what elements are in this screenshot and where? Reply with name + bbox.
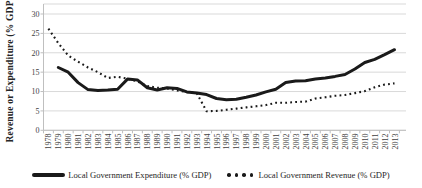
svg-text:2006: 2006 — [321, 134, 330, 150]
svg-text:1979: 1979 — [54, 134, 63, 150]
svg-text:1981: 1981 — [74, 134, 83, 150]
svg-text:1982: 1982 — [84, 134, 93, 150]
svg-text:1996: 1996 — [222, 134, 231, 150]
svg-text:1989: 1989 — [153, 134, 162, 150]
legend: Local Government Expenditure (% GDP) Loc… — [0, 166, 422, 184]
svg-text:2000: 2000 — [262, 134, 271, 150]
svg-text:1988: 1988 — [143, 134, 152, 150]
svg-text:2002: 2002 — [282, 134, 291, 150]
y-axis-title: Revenue or Expenditure (% GDP) — [5, 3, 18, 143]
svg-text:20: 20 — [32, 49, 40, 58]
svg-text:2013: 2013 — [391, 134, 400, 150]
svg-text:2005: 2005 — [311, 134, 320, 150]
axes — [41, 4, 407, 133]
svg-text:2004: 2004 — [302, 134, 311, 150]
legend-item-revenue: Local Government Revenue (% GDP) — [227, 170, 389, 180]
gridlines — [44, 4, 407, 130]
revenue-dots-swatch — [227, 173, 253, 177]
svg-text:2001: 2001 — [272, 134, 281, 150]
svg-text:2009: 2009 — [351, 134, 360, 150]
svg-text:1991: 1991 — [173, 134, 182, 150]
svg-text:2011: 2011 — [371, 134, 380, 150]
svg-text:1993: 1993 — [193, 134, 202, 150]
svg-text:1990: 1990 — [163, 134, 172, 150]
expenditure-line — [58, 50, 394, 100]
expenditure-solid-line-swatch — [32, 173, 65, 177]
y-axis-tick-labels: 051015202530 — [32, 10, 40, 135]
legend-dot — [227, 173, 231, 177]
legend-item-expenditure: Local Government Expenditure (% GDP) — [32, 170, 211, 180]
svg-text:1978: 1978 — [44, 134, 53, 150]
svg-text:1986: 1986 — [124, 134, 133, 150]
svg-text:1999: 1999 — [252, 134, 261, 150]
legend-label-expenditure: Local Government Expenditure (% GDP) — [68, 170, 211, 180]
svg-text:1995: 1995 — [213, 134, 222, 150]
x-axis-tick-labels: 1978197919801981198219831984198519861987… — [44, 134, 399, 150]
svg-text:1994: 1994 — [203, 134, 212, 150]
legend-dot — [235, 173, 239, 177]
svg-text:1980: 1980 — [64, 134, 73, 150]
svg-text:2003: 2003 — [292, 134, 301, 150]
svg-text:2007: 2007 — [331, 134, 340, 150]
svg-text:15: 15 — [32, 68, 40, 77]
svg-text:1997: 1997 — [232, 134, 241, 150]
svg-text:2012: 2012 — [381, 134, 390, 150]
svg-text:1987: 1987 — [133, 134, 142, 150]
svg-text:2010: 2010 — [361, 134, 370, 150]
legend-dot — [250, 173, 254, 177]
legend-label-revenue: Local Government Revenue (% GDP) — [258, 170, 389, 180]
svg-text:1983: 1983 — [94, 134, 103, 150]
legend-dot — [242, 173, 246, 177]
svg-text:1984: 1984 — [104, 134, 113, 150]
svg-text:0: 0 — [36, 126, 40, 135]
svg-text:25: 25 — [32, 29, 40, 38]
svg-text:1998: 1998 — [242, 134, 251, 150]
svg-text:5: 5 — [36, 107, 40, 116]
svg-text:1992: 1992 — [183, 134, 192, 150]
plot-area: 0510152025301978197919801981198219831984… — [0, 0, 422, 188]
line-chart: 0510152025301978197919801981198219831984… — [0, 0, 422, 188]
svg-text:30: 30 — [32, 10, 40, 19]
svg-text:10: 10 — [32, 87, 40, 96]
svg-text:2008: 2008 — [341, 134, 350, 150]
svg-text:1985: 1985 — [114, 134, 123, 150]
